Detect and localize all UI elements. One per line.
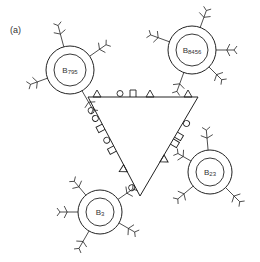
antibody-receptor-icon: [226, 188, 245, 207]
antibody-receptor-icon: [119, 223, 139, 237]
antibody-receptor-icon: [90, 40, 111, 56]
square-epitope-icon: [174, 132, 183, 141]
cell-label-b8456: B8456: [183, 46, 202, 55]
circle-epitope-icon: [117, 91, 123, 97]
cell-label-b23: B23: [204, 168, 216, 177]
antibody-receptor-icon: [199, 6, 211, 27]
antibody-receptor-icon: [69, 176, 86, 195]
immune-complex-diagram: [0, 0, 260, 262]
triangle-epitope-icon: [93, 90, 101, 97]
triangle-epitope-icon: [117, 165, 127, 175]
antibody-receptor-icon: [146, 30, 169, 42]
antibody-receptor-icon: [26, 77, 47, 89]
cell-label-b3: B3: [96, 208, 105, 217]
antibody-receptor-icon: [57, 206, 78, 218]
antibody-receptor-icon: [201, 127, 213, 150]
antibody-receptor-icon: [216, 44, 237, 56]
antibody-receptor-icon: [53, 22, 65, 47]
antibody-receptor-icon: [209, 67, 227, 85]
antigen-triangle: [88, 97, 198, 196]
square-epitope-icon: [170, 139, 179, 148]
square-epitope-icon: [107, 146, 116, 155]
antibody-receptor-icon: [74, 231, 89, 253]
cell-label-b795: B795: [62, 66, 77, 75]
antibody-receptor-icon: [173, 186, 193, 204]
panel-label: (a): [10, 25, 21, 35]
antibody-receptor-icon: [173, 149, 191, 161]
triangle-epitope-icon: [146, 90, 154, 97]
square-epitope-icon: [96, 124, 105, 133]
square-epitope-icon: [130, 90, 136, 97]
triangle-epitope-icon: [184, 90, 192, 97]
antibody-receptor-icon: [172, 73, 184, 96]
